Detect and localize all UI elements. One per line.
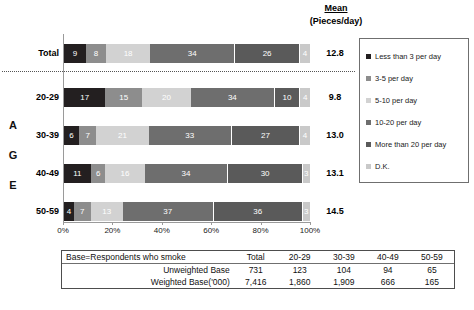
chart-row: Total98183426412.8: [63, 44, 311, 63]
legend-item[interactable]: 5-10 per day: [366, 89, 468, 111]
bar-segment-value: 26: [263, 50, 272, 58]
base-table-cell: 65: [410, 264, 454, 277]
x-axis-tick: [211, 222, 212, 225]
bar-segment: 13: [91, 202, 123, 221]
legend-item[interactable]: 10-20 per day: [366, 111, 468, 133]
legend-item[interactable]: More than 20 per day: [366, 133, 468, 155]
legend-item[interactable]: D.K.: [366, 155, 468, 177]
bar-segment: 8: [86, 44, 106, 63]
bar-segment-value: 16: [121, 170, 130, 178]
bar-segment-value: 33: [185, 132, 194, 140]
base-table-cell: 731: [234, 264, 278, 277]
bar-segment-value: 11: [73, 170, 81, 178]
plot-area: Total98183426412.820-29171520341049.830-…: [63, 34, 311, 222]
bar-segment: 9: [64, 44, 86, 63]
bar-segment: 34: [145, 164, 229, 183]
bar-segment: 7: [79, 126, 96, 145]
base-table-cell: 1,909: [322, 276, 366, 288]
mean-header-subtitle: (Pieces/day): [283, 15, 389, 28]
bar-segment-value: 27: [261, 132, 270, 140]
row-mean-value: 14.5: [315, 202, 355, 221]
bar-segment: 4: [300, 88, 310, 107]
bar-segment: 21: [96, 126, 148, 145]
bar-segment: 3: [303, 164, 310, 183]
x-axis-tick-label: 80%: [253, 226, 269, 235]
bar-segment: 34: [191, 88, 275, 107]
legend-item-label: 10-20 per day: [375, 118, 421, 127]
mean-column-header: Mean (Pieces/day): [283, 2, 389, 28]
bar-segment-value: 18: [124, 50, 133, 58]
x-axis-tick-labels: 0%20%40%60%80%100%: [63, 226, 311, 238]
base-table-header-cell: 50-59: [410, 251, 454, 264]
base-table-cell: 123: [278, 264, 322, 277]
row-mean-value: 13.0: [315, 126, 355, 145]
bar-segment-value: 3: [304, 208, 308, 216]
legend-swatch-icon: [366, 98, 371, 103]
legend-item[interactable]: 3-5 per day: [366, 67, 468, 89]
bar-segment-value: 34: [228, 94, 237, 102]
base-table-header-cell: 30-39: [322, 251, 366, 264]
x-axis-tick: [63, 222, 64, 225]
x-axis-tick-label: 20%: [104, 226, 120, 235]
bar-segment-value: 34: [188, 50, 197, 58]
legend-item-label: 5-10 per day: [375, 96, 417, 105]
bar-segment: 36: [214, 202, 303, 221]
legend-swatch-icon: [366, 120, 371, 125]
base-table-row: Unweighted Base7311231049465: [62, 264, 454, 277]
bar-segment: 18: [106, 44, 150, 63]
stacked-bar: 672133274: [64, 126, 310, 145]
legend-item-label: More than 20 per day: [375, 140, 446, 149]
x-axis-tick-label: 60%: [203, 226, 219, 235]
legend-swatch-icon: [366, 76, 371, 81]
bar-segment-value: 21: [118, 132, 127, 140]
legend-swatch-icon: [366, 142, 371, 147]
bar-segment: 6: [91, 164, 106, 183]
x-axis-tick: [261, 222, 262, 225]
row-category-label: Total: [1, 44, 59, 63]
stacked-bar: 1161634303: [64, 164, 310, 183]
bar-segment-value: 36: [253, 208, 262, 216]
bar-segment: 3: [303, 202, 310, 221]
x-axis-tick: [162, 222, 163, 225]
bar-segment: 4: [300, 44, 310, 63]
base-table-cell: 165: [410, 276, 454, 288]
row-mean-value: 13.1: [315, 164, 355, 183]
base-table-row-label: Unweighted Base: [62, 264, 234, 277]
base-table-cell: 104: [322, 264, 366, 277]
bar-segment: 16: [105, 164, 144, 183]
base-table-row: Weighted Base('000)7,4161,8601,909666165: [62, 276, 454, 288]
bar-segment: 17: [64, 88, 105, 107]
bar-segment-value: 17: [80, 94, 89, 102]
x-axis-tick: [112, 222, 113, 225]
legend-swatch-icon: [366, 164, 371, 169]
base-table-header-cell: Total: [234, 251, 278, 264]
bar-segment-value: 30: [261, 170, 270, 178]
chart-row: 50-5947133736314.5: [63, 202, 311, 221]
bar-segment: 6: [64, 126, 79, 145]
bar-segment-value: 6: [96, 170, 100, 178]
row-mean-value: 12.8: [315, 44, 355, 63]
bar-segment-value: 37: [163, 208, 172, 216]
stacked-bar: 471337363: [64, 202, 310, 221]
bar-segment-value: 7: [80, 208, 84, 216]
legend-item[interactable]: Less than 3 per day: [366, 45, 468, 67]
x-axis-line: [63, 222, 311, 223]
bar-segment: 10: [275, 88, 300, 107]
bar-segment-value: 9: [73, 50, 77, 58]
base-table-cell: 7,416: [234, 276, 278, 288]
bar-segment-value: 6: [69, 132, 73, 140]
bar-segment: 4: [300, 126, 310, 145]
bar-segment: 30: [228, 164, 302, 183]
bar-segment: 11: [64, 164, 91, 183]
base-table-cell: 1,860: [278, 276, 322, 288]
bar-segment: 26: [235, 44, 300, 63]
bar-segment-value: 34: [182, 170, 191, 178]
legend: Less than 3 per day3-5 per day5-10 per d…: [359, 38, 469, 183]
bar-segment: 15: [105, 88, 142, 107]
x-axis-tick-label: 40%: [154, 226, 170, 235]
legend-item-label: D.K.: [375, 162, 390, 171]
mean-header-title: Mean: [283, 2, 389, 15]
x-axis-tick-label: 100%: [300, 226, 320, 235]
total-age-divider: [2, 71, 355, 72]
chart-row: 30-3967213327413.0: [63, 126, 311, 145]
